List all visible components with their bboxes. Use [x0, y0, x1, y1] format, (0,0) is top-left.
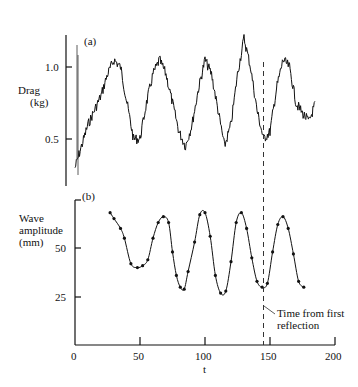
- annotation-leader: [264, 306, 275, 314]
- wave-trace: [109, 210, 306, 295]
- panel-a-axes: [66, 35, 72, 186]
- annotation-line-2: reflection: [277, 319, 319, 331]
- x-tick-100: 100: [195, 350, 212, 362]
- tick-b-50: 50: [55, 242, 66, 254]
- drag-trace: [75, 35, 315, 176]
- wave-axis-label-3: (mm): [19, 236, 43, 248]
- panel-a-label: (a): [84, 35, 96, 47]
- x-tick-150: 150: [260, 350, 277, 362]
- drag-axis-unit: (kg): [30, 96, 48, 108]
- tick-a-1: 1.0: [45, 61, 59, 73]
- x-tick-50: 50: [133, 350, 144, 362]
- drag-axis-label: Drag: [18, 84, 40, 96]
- tick-b-25: 25: [55, 291, 66, 303]
- panel-b-label: (b): [82, 190, 95, 202]
- wave-axis-label-2: amplitude: [19, 224, 63, 236]
- x-axis-label: t: [203, 363, 206, 375]
- wave-axis-label-1: Wave: [19, 212, 44, 224]
- x-tick-200: 200: [325, 350, 342, 362]
- tick-a-05: 0.5: [45, 133, 59, 145]
- annotation-line-1: Time from first: [277, 307, 344, 319]
- x-tick-0: 0: [71, 350, 77, 362]
